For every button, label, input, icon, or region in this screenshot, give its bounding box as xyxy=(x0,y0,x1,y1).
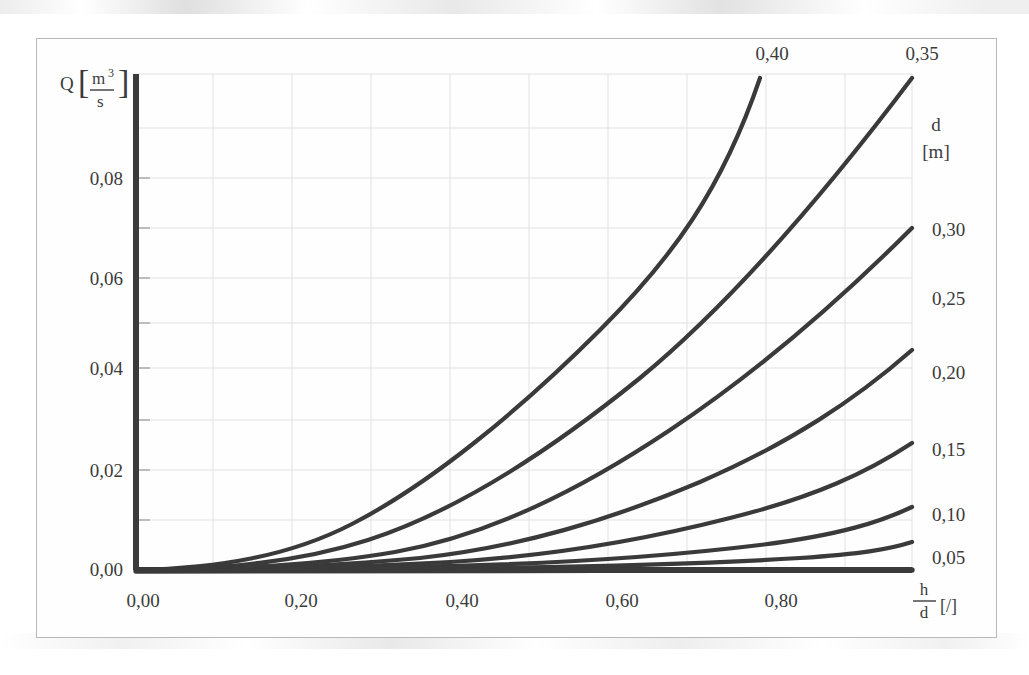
series-label-0-35: 0,35 xyxy=(905,43,938,64)
y-tick-label-1: 0,02 xyxy=(90,460,123,481)
y-axis-symbol: Q xyxy=(60,73,74,94)
series-label-0-15: 0,15 xyxy=(932,439,965,460)
chart-plot-area: 0,00 0,02 0,04 0,06 0,08 0,00 0,20 0,40 … xyxy=(0,0,1029,675)
curve-d-0-05 xyxy=(136,570,912,571)
x-tick-label-1: 0,20 xyxy=(284,590,317,611)
y-tick-label-2: 0,04 xyxy=(90,358,124,379)
x-axis-unit: [/] xyxy=(940,596,957,616)
x-axis-denominator: d xyxy=(920,603,929,622)
x-tick-label-3: 0,60 xyxy=(605,590,638,611)
y-axis-bracket-open: [ xyxy=(78,63,89,100)
legend-title-symbol: d xyxy=(931,114,941,135)
x-tick-label-4: 0,80 xyxy=(764,590,797,611)
series-label-0-05: 0,05 xyxy=(932,547,965,568)
series-label-0-10: 0,10 xyxy=(932,504,965,525)
series-label-0-30: 0,30 xyxy=(932,219,965,240)
legend-title: d [m] xyxy=(922,114,949,162)
y-axis-title: Q [ m 3 s ] xyxy=(60,63,129,111)
x-tick-label-2: 0,40 xyxy=(445,590,478,611)
curve-d-0-25 xyxy=(136,350,912,570)
y-axis-unit-numerator: m xyxy=(92,69,105,88)
y-tick-label-3: 0,06 xyxy=(90,268,123,289)
axis-lines xyxy=(134,74,912,570)
y-tick-labels: 0,00 0,02 0,04 0,06 0,08 xyxy=(90,168,124,580)
y-axis-bracket-close: ] xyxy=(118,63,129,100)
y-tick-label-4: 0,08 xyxy=(90,168,123,189)
x-tick-label-0: 0,00 xyxy=(126,590,159,611)
data-curves xyxy=(136,78,912,571)
y-axis-ticks xyxy=(139,178,150,520)
grid-lines xyxy=(134,74,912,570)
legend-title-unit: [m] xyxy=(922,141,949,162)
y-axis-unit-numerator-exponent: 3 xyxy=(108,66,114,80)
series-label-0-20: 0,20 xyxy=(932,362,965,383)
x-tick-labels: 0,00 0,20 0,40 0,60 0,80 xyxy=(126,590,797,611)
y-tick-label-0: 0,00 xyxy=(90,559,123,580)
series-label-0-25: 0,25 xyxy=(932,288,965,309)
series-label-0-40: 0,40 xyxy=(755,43,788,64)
curve-d-0-35 xyxy=(136,78,912,570)
x-axis-numerator: h xyxy=(920,580,929,599)
x-axis-title: h d [/] xyxy=(913,580,957,622)
y-axis-unit-denominator: s xyxy=(97,92,104,111)
